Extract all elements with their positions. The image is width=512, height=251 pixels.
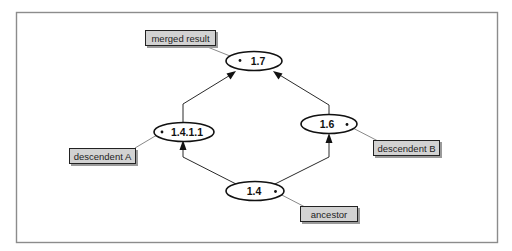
callout-ancestor: ancestor — [301, 207, 361, 225]
callout-text: ancestor — [311, 209, 347, 220]
callout-text: merged result — [151, 33, 209, 44]
node-label: 1.7 — [251, 55, 266, 67]
node-label: 1.4.1.1 — [171, 126, 203, 138]
node-dot-icon — [161, 131, 164, 134]
revision-diagram: 1.7 1.4.1.1 1.6 1.4 merged result descen… — [0, 0, 512, 251]
node-dot-icon — [346, 123, 349, 126]
node-1-4-1-1[interactable]: 1.4.1.1 — [154, 123, 214, 142]
node-label: 1.4 — [247, 185, 262, 197]
callout-text: descendent A — [74, 151, 132, 162]
callout-descendent-a: descendent A — [70, 149, 139, 167]
node-1-6[interactable]: 1.6 — [301, 115, 357, 134]
node-1-7[interactable]: 1.7 — [226, 52, 282, 71]
node-1-4[interactable]: 1.4 — [226, 182, 284, 201]
callout-merged-result: merged result — [146, 31, 219, 49]
diagram-frame — [17, 13, 498, 243]
node-label: 1.6 — [320, 118, 335, 130]
callout-descendent-b: descendent B — [374, 141, 443, 159]
node-dot-icon — [239, 59, 242, 62]
node-dot-icon — [274, 190, 277, 193]
callout-text: descendent B — [377, 143, 435, 154]
